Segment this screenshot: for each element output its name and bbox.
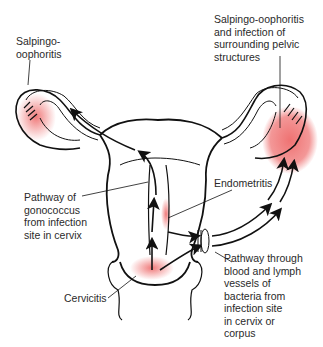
label-salpingo-oophoritis-right: Salpingo-oophoritis and infection of sur… <box>214 13 304 63</box>
blood-vessel <box>198 229 209 253</box>
label-gonococcus-pathway: Pathway of gonococcus from infection sit… <box>24 191 87 241</box>
label-endometritis: Endometritis <box>214 177 272 190</box>
label-blood-lymph-pathway: Pathway through blood and lymph vessels … <box>224 252 303 340</box>
infection-left-ovary <box>16 93 56 141</box>
label-salpingo-oophoritis-left: Salpingo- oophoritis <box>16 35 62 60</box>
infection-right-ovary <box>262 106 318 174</box>
label-cervicitis: Cervicitis <box>64 292 107 305</box>
